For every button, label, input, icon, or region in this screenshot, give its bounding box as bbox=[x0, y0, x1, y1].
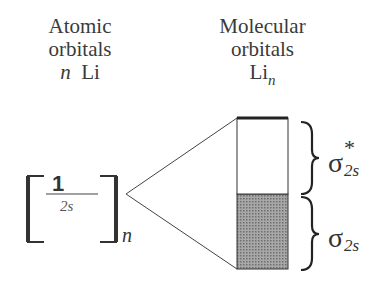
sigma-symbol: σ bbox=[328, 147, 343, 178]
bonding-label: σ 2s bbox=[328, 222, 343, 254]
antibonding-label: σ * 2s bbox=[328, 147, 343, 179]
right-bracket bbox=[100, 176, 116, 242]
left-bracket bbox=[28, 176, 44, 242]
antibonding-brace bbox=[301, 122, 319, 194]
orbital-label: 2s bbox=[60, 198, 73, 215]
correlation-line-top bbox=[126, 118, 237, 194]
bonding-brace bbox=[301, 197, 319, 270]
antibonding-band-empty bbox=[237, 118, 288, 194]
sigma-symbol: σ bbox=[328, 222, 343, 253]
electron-count: 1 bbox=[52, 171, 64, 197]
orbital-subscript: 2s bbox=[344, 161, 359, 181]
orbital-subscript: 2s bbox=[344, 236, 359, 256]
correlation-line-bottom bbox=[126, 194, 237, 269]
bonding-band-filled bbox=[237, 194, 288, 269]
bracket-multiplier: n bbox=[122, 224, 132, 247]
star-superscript: * bbox=[344, 135, 355, 161]
